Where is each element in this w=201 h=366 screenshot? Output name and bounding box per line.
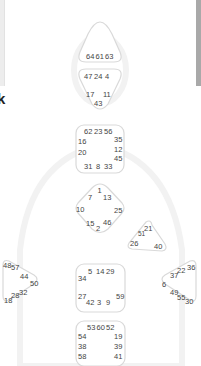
gate-17[interactable]: 17 [86,90,94,99]
gate-21[interactable]: 21 [144,224,152,233]
gate-20[interactable]: 20 [78,148,86,157]
gate-29[interactable]: 29 [106,267,114,276]
gate-4[interactable]: 4 [105,72,109,81]
gate-16[interactable]: 16 [78,137,86,146]
gate-47[interactable]: 47 [84,72,92,81]
gate-9[interactable]: 9 [106,298,110,307]
gate-38[interactable]: 38 [78,342,86,351]
gate-64[interactable]: 64 [86,52,94,61]
root-center[interactable]: 53 60 52 54 38 58 19 39 41 [76,321,125,366]
gate-34[interactable]: 34 [78,274,86,283]
gate-35[interactable]: 35 [114,135,122,144]
gate-50[interactable]: 50 [30,279,38,288]
heart-center[interactable]: 21 51 26 40 [128,221,166,251]
gate-13[interactable]: 13 [103,193,111,202]
gate-24[interactable]: 24 [94,72,102,81]
gate-26[interactable]: 26 [130,239,138,248]
gate-42[interactable]: 42 [86,298,94,307]
gate-54[interactable]: 54 [78,332,86,341]
gate-32[interactable]: 32 [19,288,27,297]
gate-30[interactable]: 30 [185,297,193,306]
g-center[interactable]: 1 7 13 10 25 15 46 2 [76,184,124,233]
gate-40[interactable]: 40 [154,242,162,251]
gate-45[interactable]: 45 [114,154,122,163]
gate-56[interactable]: 56 [104,127,112,136]
gate-1[interactable]: 1 [98,186,102,195]
gate-46[interactable]: 46 [103,218,111,227]
gate-51[interactable]: 51 [138,230,146,237]
gate-62[interactable]: 62 [84,127,92,136]
gate-11[interactable]: 11 [103,90,111,99]
solar-plexus-center[interactable]: 36 22 37 6 49 55 30 [162,261,196,306]
ajna-center[interactable]: 47 24 4 17 11 43 [79,69,121,109]
gate-63[interactable]: 63 [105,52,113,61]
gate-6[interactable]: 6 [162,280,166,289]
gate-14[interactable]: 14 [96,267,104,276]
gate-57[interactable]: 57 [11,263,19,272]
gate-58[interactable]: 58 [78,352,86,361]
gate-12[interactable]: 12 [114,145,122,154]
gate-15[interactable]: 15 [86,219,94,228]
bodygraph: 64 61 63 47 24 4 17 11 43 62 23 56 16 20… [0,0,201,366]
gate-7[interactable]: 7 [88,193,92,202]
gate-31[interactable]: 31 [84,162,92,171]
gate-19[interactable]: 19 [114,332,122,341]
gate-44[interactable]: 44 [20,272,28,281]
gate-36[interactable]: 36 [187,263,195,272]
gate-25[interactable]: 25 [114,206,122,215]
gate-3[interactable]: 3 [97,298,101,307]
gate-33[interactable]: 33 [104,162,112,171]
gate-10[interactable]: 10 [76,205,84,214]
gate-41[interactable]: 41 [114,352,122,361]
throat-center[interactable]: 62 23 56 16 20 35 12 45 31 8 33 [76,125,124,173]
gate-60[interactable]: 60 [97,323,105,332]
gate-5[interactable]: 5 [88,267,92,276]
gate-43[interactable]: 43 [94,99,102,108]
gate-37[interactable]: 37 [170,271,178,280]
gate-2[interactable]: 2 [96,224,100,233]
gate-53[interactable]: 53 [87,323,95,332]
gate-52[interactable]: 52 [106,323,114,332]
gate-18[interactable]: 18 [4,296,12,305]
gate-39[interactable]: 39 [114,342,122,351]
head-center[interactable]: 64 61 63 [79,22,121,62]
sacral-center[interactable]: 5 14 29 34 27 59 42 3 9 [76,264,125,312]
gate-59[interactable]: 59 [116,292,124,301]
gate-23[interactable]: 23 [94,127,102,136]
gate-8[interactable]: 8 [96,162,100,171]
gate-61[interactable]: 61 [96,52,104,61]
